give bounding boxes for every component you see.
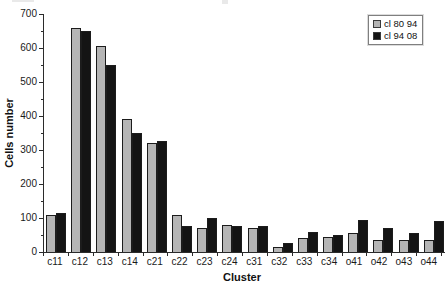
x-label-c23: c23 — [195, 256, 215, 267]
y-tick-label-500: 500 — [1, 77, 37, 87]
x-label-c31: c31 — [244, 256, 264, 267]
x-label-o41: o41 — [344, 256, 364, 267]
bar-group-c14 — [122, 14, 142, 252]
bar-group-c11 — [46, 14, 66, 252]
bar-o44-cl-94-08 — [434, 221, 444, 252]
x-label-c11: c11 — [45, 256, 65, 267]
bar-group-c13 — [96, 14, 116, 252]
x-tick-16 — [441, 253, 442, 256]
bar-o43-cl-94-08 — [409, 233, 419, 252]
y-tick-label-600: 600 — [1, 43, 37, 53]
bar-group-c31 — [248, 14, 268, 252]
y-tick-label-0: 0 — [1, 247, 37, 257]
bar-c14-cl-94-08 — [132, 133, 142, 252]
x-label-o42: o42 — [369, 256, 389, 267]
y-tick-label-100: 100 — [1, 213, 37, 223]
bar-group-c23 — [197, 14, 217, 252]
bar-group-c21 — [147, 14, 167, 252]
x-label-c24: c24 — [219, 256, 239, 267]
bar-c13-cl-80-94 — [96, 46, 106, 252]
x-label-o44: o44 — [419, 256, 439, 267]
bar-o42-cl-80-94 — [373, 240, 383, 252]
bar-c33-cl-94-08 — [308, 232, 318, 252]
bar-o42-cl-94-08 — [383, 228, 393, 252]
bar-c22-cl-80-94 — [172, 215, 182, 252]
x-label-c21: c21 — [145, 256, 165, 267]
bar-o41-cl-80-94 — [348, 233, 358, 252]
legend-entry-cl-94-08: cl 94 08 — [373, 31, 417, 41]
bar-c24-cl-94-08 — [232, 226, 242, 252]
bar-group-o41 — [348, 14, 368, 252]
legend-swatch-icon — [373, 20, 381, 28]
y-tick-label-200: 200 — [1, 179, 37, 189]
x-label-c34: c34 — [319, 256, 339, 267]
bar-c22-cl-94-08 — [182, 226, 192, 252]
bar-c34-cl-80-94 — [323, 237, 333, 252]
bar-group-o44 — [424, 14, 444, 252]
bar-group-c32 — [273, 14, 293, 252]
bar-c31-cl-94-08 — [258, 226, 268, 252]
legend-swatch-icon — [373, 32, 381, 40]
bar-c11-cl-80-94 — [46, 215, 56, 252]
bar-o44-cl-80-94 — [424, 240, 434, 252]
bar-o41-cl-94-08 — [358, 220, 368, 252]
x-label-c32: c32 — [269, 256, 289, 267]
bar-c24-cl-80-94 — [222, 225, 232, 252]
x-label-o43: o43 — [394, 256, 414, 267]
bar-c34-cl-94-08 — [333, 235, 343, 252]
bar-group-c34 — [323, 14, 343, 252]
bar-group-c33 — [298, 14, 318, 252]
bar-c13-cl-94-08 — [106, 65, 116, 252]
x-label-c22: c22 — [170, 256, 190, 267]
bar-c21-cl-94-08 — [157, 141, 167, 252]
x-label-c33: c33 — [294, 256, 314, 267]
bar-c14-cl-80-94 — [122, 119, 132, 252]
bar-c12-cl-94-08 — [81, 31, 91, 252]
bar-c31-cl-80-94 — [248, 228, 258, 252]
bar-c32-cl-80-94 — [273, 247, 283, 252]
legend: cl 80 94cl 94 08 — [368, 15, 423, 45]
bar-o43-cl-80-94 — [399, 240, 409, 252]
bar-group-c22 — [172, 14, 192, 252]
y-tick-label-400: 400 — [1, 111, 37, 121]
bar-group-c24 — [222, 14, 242, 252]
x-axis-title: Cluster — [43, 271, 441, 283]
cropped-text-artifact-left — [12, 0, 34, 2]
legend-entry-cl-80-94: cl 80 94 — [373, 19, 417, 29]
bar-c33-cl-80-94 — [298, 238, 308, 252]
bar-group-c12 — [71, 14, 91, 252]
x-label-c12: c12 — [70, 256, 90, 267]
x-label-c14: c14 — [120, 256, 140, 267]
y-tick-label-700: 700 — [1, 9, 37, 19]
legend-label: cl 94 08 — [384, 31, 417, 41]
bar-c23-cl-80-94 — [197, 228, 207, 252]
bar-c21-cl-80-94 — [147, 143, 157, 252]
bar-c32-cl-94-08 — [283, 243, 293, 252]
bar-chart: Cells number 0100200300400500600700 c11c… — [0, 0, 445, 289]
bar-c11-cl-94-08 — [56, 213, 66, 252]
plot-area — [43, 14, 445, 253]
x-axis-labels: c11c12c13c14c21c22c23c24c31c32c33c34o41o… — [43, 256, 441, 267]
bar-group-o43 — [399, 14, 419, 252]
cropped-text-artifact-center — [222, 0, 228, 4]
y-tick-label-300: 300 — [1, 145, 37, 155]
bar-c12-cl-80-94 — [71, 28, 81, 252]
bar-group-o42 — [373, 14, 393, 252]
y-axis-title: Cells number — [3, 93, 15, 173]
bar-c23-cl-94-08 — [207, 218, 217, 252]
x-label-c13: c13 — [95, 256, 115, 267]
legend-label: cl 80 94 — [384, 19, 417, 29]
